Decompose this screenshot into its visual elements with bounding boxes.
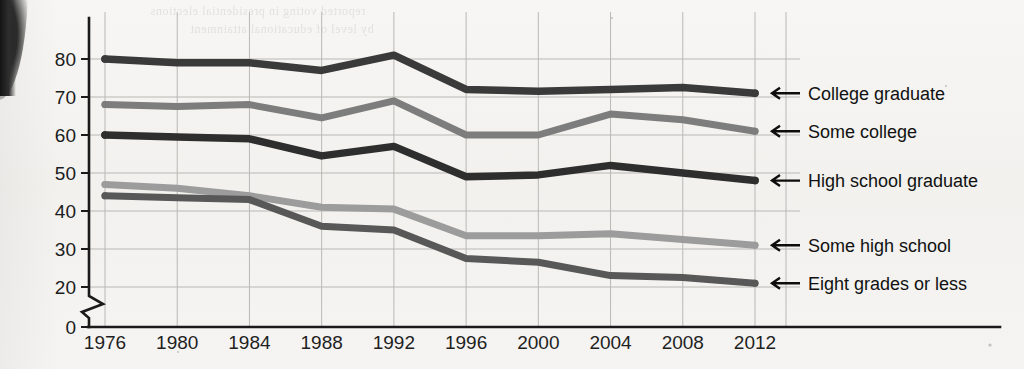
series-endpoint-eight-grades-or-less [752, 280, 759, 287]
x-tick-label-1996: 1996 [445, 332, 487, 353]
x-tick-label-2000: 2000 [517, 332, 559, 353]
legend-label-some-high-school: Some high school [808, 236, 951, 256]
legend-label-college-graduate: College graduate [808, 84, 945, 104]
x-tick-label-1992: 1992 [373, 332, 415, 353]
scan-speck [988, 343, 991, 346]
chart-canvas: 020304050607080 197619801984198819921996… [0, 0, 1024, 369]
scan-speck [945, 85, 947, 87]
x-tick-label-1980: 1980 [156, 332, 198, 353]
series-line-college-graduate [105, 55, 755, 93]
legend-label-eight-grades-or-less: Eight grades or less [808, 274, 967, 294]
x-tick-label-2008: 2008 [662, 332, 704, 353]
series-endpoint-some-college [102, 101, 109, 108]
series-endpoint-eight-grades-or-less [102, 192, 109, 199]
series-endpoint-college-graduate [751, 89, 759, 97]
x-axis-tick-labels: 1976198019841988199219962000200420082012 [84, 332, 776, 353]
y-axis-tick-labels: 020304050607080 [55, 49, 89, 338]
series-endpoint-high-school-graduate [751, 177, 759, 185]
x-tick-label-2004: 2004 [589, 332, 632, 353]
y-tick-label-20: 20 [55, 277, 76, 298]
series-line-high-school-graduate [105, 135, 755, 181]
scan-speck [611, 17, 613, 19]
series-line-some-college [105, 101, 755, 135]
x-tick-label-1984: 1984 [228, 332, 271, 353]
legend-item-college-graduate: College graduate [772, 84, 945, 104]
line-chart: 020304050607080 197619801984198819921996… [0, 0, 1024, 369]
y-tick-label-30: 30 [55, 239, 76, 260]
y-tick-label-70: 70 [55, 87, 76, 108]
y-tick-label-50: 50 [55, 163, 76, 184]
y-tick-label-0: 0 [65, 317, 76, 338]
legend-item-some-high-school: Some high school [772, 236, 951, 256]
x-tick-label-1988: 1988 [301, 332, 343, 353]
legend-item-high-school-graduate: High school graduate [772, 171, 978, 191]
series-endpoint-college-graduate [101, 55, 109, 63]
legend-label-some-college: Some college [808, 122, 917, 142]
y-tick-label-80: 80 [55, 49, 76, 70]
legend-label-high-school-graduate: High school graduate [808, 171, 978, 191]
x-tick-label-2012: 2012 [734, 332, 776, 353]
x-tick-label-1976: 1976 [84, 332, 126, 353]
legend: College graduateSome collegeHigh school … [772, 84, 978, 294]
y-tick-label-60: 60 [55, 125, 76, 146]
series-endpoint-some-high-school [752, 242, 759, 249]
series-endpoint-some-high-school [102, 181, 109, 188]
legend-item-some-college: Some college [772, 122, 917, 142]
series-endpoint-some-college [752, 128, 759, 135]
series-line-some-high-school [105, 184, 755, 245]
scan-speck [177, 351, 179, 353]
series-endpoint-high-school-graduate [101, 131, 109, 139]
y-tick-label-40: 40 [55, 201, 76, 222]
legend-item-eight-grades-or-less: Eight grades or less [772, 274, 967, 294]
